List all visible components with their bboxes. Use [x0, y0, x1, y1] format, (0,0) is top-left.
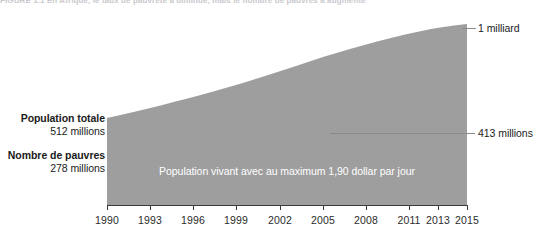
tick-label-2002: 2002	[268, 214, 292, 226]
figure-title: FIGURE 1.1 En Afrique, le taux de pauvre…	[0, 0, 541, 5]
axis-tick	[280, 205, 281, 210]
callout-1-milliard: 1 milliard	[478, 22, 520, 34]
area-series-shape	[107, 24, 467, 205]
tick-label-1999: 1999	[224, 214, 248, 226]
axis-tick	[107, 205, 108, 210]
callout-nombre-de-pauvres-value: 278 millions	[4, 162, 105, 175]
x-axis-line	[107, 205, 467, 206]
x-axis-tick-labels: 1990 1993 1996 1999 2002 2005 2008 2011 …	[107, 214, 467, 230]
axis-tick	[467, 205, 468, 210]
tick-label-1990: 1990	[95, 214, 119, 226]
callout-nombre-de-pauvres: Nombre de pauvres 278 millions	[4, 149, 105, 175]
tick-label-2015: 2015	[455, 214, 479, 226]
tick-label-1996: 1996	[181, 214, 205, 226]
axis-tick	[366, 205, 367, 210]
axis-tick	[323, 205, 324, 210]
callout-population-totale-value: 512 millions	[4, 125, 105, 138]
axis-tick	[150, 205, 151, 210]
figure-container: FIGURE 1.1 En Afrique, le taux de pauvre…	[0, 0, 541, 241]
axis-tick	[409, 205, 410, 210]
tick-label-2013: 2013	[426, 214, 450, 226]
tick-label-2008: 2008	[354, 214, 378, 226]
tick-label-1993: 1993	[138, 214, 162, 226]
x-axis	[107, 205, 467, 213]
tick-label-2005: 2005	[311, 214, 335, 226]
tick-label-2011: 2011	[398, 214, 421, 226]
callout-413-millions: 413 millions	[478, 127, 533, 139]
axis-tick	[193, 205, 194, 210]
leader-line-1-milliard	[462, 28, 476, 29]
axis-tick	[236, 205, 237, 210]
callout-nombre-de-pauvres-title: Nombre de pauvres	[4, 149, 105, 162]
callout-population-totale-title: Population totale	[4, 112, 105, 125]
chart-plot-area	[107, 24, 467, 205]
axis-tick	[438, 205, 439, 210]
leader-line-413	[330, 133, 475, 134]
area-caption: Population vivant avec au maximum 1,90 d…	[107, 165, 467, 177]
callout-population-totale: Population totale 512 millions	[4, 112, 105, 138]
